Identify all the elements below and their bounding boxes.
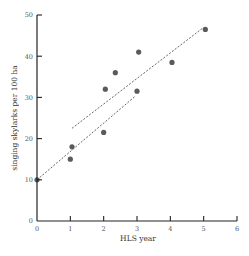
trend-line — [72, 27, 204, 128]
data-point — [69, 144, 74, 149]
axes — [37, 15, 237, 221]
x-tick-label: 0 — [35, 225, 39, 233]
y-tick-label: 10 — [25, 176, 33, 184]
data-point — [101, 130, 106, 135]
y-tick-label: 20 — [25, 135, 33, 143]
x-tick-label: 3 — [135, 225, 139, 233]
data-point — [136, 49, 141, 54]
y-axis-ticks: 01020304050 — [25, 11, 42, 225]
scatter-chart: 0123456 01020304050 HLS year singing sky… — [0, 0, 249, 256]
y-tick-label: 50 — [25, 11, 33, 19]
data-point — [169, 60, 174, 65]
x-tick-label: 6 — [235, 225, 239, 233]
data-point — [134, 89, 139, 94]
data-point — [103, 87, 108, 92]
y-axis-label: singing skylarks per 100 ha — [10, 65, 19, 171]
x-tick-label: 5 — [202, 225, 206, 233]
x-tick-label: 4 — [168, 225, 172, 233]
y-tick-label: 40 — [25, 53, 33, 61]
data-point — [203, 27, 208, 32]
x-tick-label: 2 — [102, 225, 106, 233]
y-tick-label: 30 — [25, 94, 33, 102]
x-axis-ticks: 0123456 — [35, 216, 239, 233]
data-point — [68, 157, 73, 162]
data-point — [113, 70, 118, 75]
x-axis-label: HLS year — [120, 234, 156, 243]
x-tick-label: 1 — [68, 225, 72, 233]
y-tick-label: 0 — [29, 217, 33, 225]
plot-area — [34, 27, 208, 183]
trend-line — [37, 96, 135, 180]
